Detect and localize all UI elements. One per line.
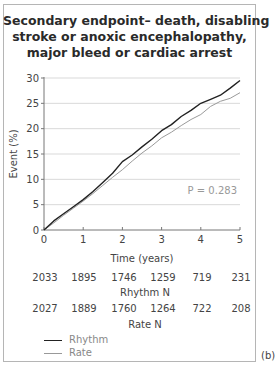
- rate-n-value: 208: [231, 303, 250, 314]
- y-axis-ticks: 051015202530: [26, 73, 44, 236]
- legend-swatch-rhythm: [44, 340, 62, 341]
- legend-label-rhythm: Rhythm: [69, 334, 108, 345]
- legend-item-rate: Rate: [44, 347, 92, 358]
- y-axis-label: Event (%): [8, 129, 19, 178]
- rhythm-n-value: 231: [231, 272, 250, 283]
- y-tick-label: 5: [33, 199, 39, 210]
- x-tick-label: 1: [80, 234, 86, 245]
- x-tick-label: 0: [41, 234, 47, 245]
- y-tick-label: 0: [33, 225, 39, 236]
- panel-label: (b): [261, 350, 275, 361]
- rhythm-n-value: 1259: [150, 272, 175, 283]
- y-tick-label: 20: [26, 123, 39, 134]
- rate-n-value: 722: [192, 303, 211, 314]
- y-tick-label: 30: [26, 73, 39, 84]
- rate-n-label: Rate N: [0, 319, 276, 330]
- x-axis-label: Time (years): [110, 253, 174, 264]
- plot-area: 051015202530 012345 Event (%) Time (year…: [0, 0, 276, 373]
- rate-n-value: 2027: [32, 303, 57, 314]
- rhythm-n-value: 2033: [32, 272, 57, 283]
- legend-item-rhythm: Rhythm: [44, 334, 108, 345]
- legend-swatch-rate: [44, 353, 62, 354]
- series-line-rate: [44, 93, 240, 230]
- x-tick-label: 2: [119, 234, 125, 245]
- p-value-annotation: P = 0.283: [188, 185, 237, 196]
- x-tick-label: 4: [198, 234, 204, 245]
- rhythm-n-value: 719: [192, 272, 211, 283]
- y-tick-label: 10: [26, 174, 39, 185]
- x-tick-label: 5: [237, 234, 243, 245]
- x-tick-label: 3: [158, 234, 164, 245]
- rate-n-value: 1760: [111, 303, 136, 314]
- rhythm-n-label: Rhythm N: [0, 287, 276, 298]
- rate-n-value: 1889: [71, 303, 96, 314]
- rhythm-n-value: 1746: [111, 272, 136, 283]
- y-tick-label: 15: [26, 149, 39, 160]
- rate-n-value: 1264: [150, 303, 175, 314]
- y-tick-label: 25: [26, 98, 39, 109]
- rhythm-n-value: 1895: [71, 272, 96, 283]
- legend-label-rate: Rate: [69, 347, 92, 358]
